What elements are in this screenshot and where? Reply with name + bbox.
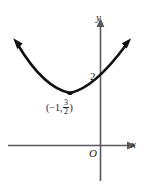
vertex-point-marker — [67, 91, 72, 95]
y-axis — [97, 18, 105, 181]
y-intercept-label: 2 — [90, 71, 96, 82]
vertex-x-value: −1, — [49, 103, 62, 113]
origin-label: O — [89, 148, 97, 159]
parabola-figure: y x O 2 (−1,32) — [0, 0, 146, 190]
x-axis-label: x — [131, 139, 136, 150]
curve-left-arrowhead-icon — [13, 38, 22, 49]
vertex-y-denominator: 2 — [63, 107, 69, 116]
parabola-path — [18, 45, 126, 93]
graph-canvas — [0, 0, 146, 190]
x-axis — [8, 142, 136, 150]
vertex-coordinate-label: (−1,32) — [46, 99, 73, 117]
parabola-curve — [13, 38, 131, 95]
vertex-y-fraction: 32 — [63, 99, 69, 117]
vertex-close-paren: ) — [69, 103, 72, 113]
y-axis-label: y — [96, 12, 101, 23]
vertex-y-numerator: 3 — [63, 99, 69, 107]
